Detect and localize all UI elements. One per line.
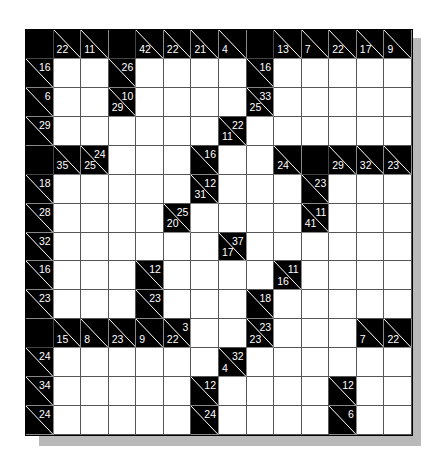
entry-cell[interactable]: [109, 261, 137, 290]
entry-cell[interactable]: [136, 348, 164, 377]
entry-cell[interactable]: [274, 88, 302, 117]
entry-cell[interactable]: [357, 377, 385, 406]
entry-cell[interactable]: [219, 204, 247, 233]
entry-cell[interactable]: [81, 59, 109, 88]
entry-cell[interactable]: [274, 377, 302, 406]
entry-cell[interactable]: [164, 146, 192, 175]
entry-cell[interactable]: [274, 233, 302, 262]
entry-cell[interactable]: [219, 88, 247, 117]
entry-cell[interactable]: [357, 175, 385, 204]
entry-cell[interactable]: [274, 59, 302, 88]
entry-cell[interactable]: [219, 261, 247, 290]
entry-cell[interactable]: [274, 204, 302, 233]
entry-cell[interactable]: [302, 261, 330, 290]
entry-cell[interactable]: [164, 88, 192, 117]
entry-cell[interactable]: [191, 348, 219, 377]
entry-cell[interactable]: [384, 348, 412, 377]
entry-cell[interactable]: [136, 204, 164, 233]
entry-cell[interactable]: [357, 59, 385, 88]
entry-cell[interactable]: [109, 233, 137, 262]
entry-cell[interactable]: [164, 290, 192, 319]
entry-cell[interactable]: [247, 204, 275, 233]
entry-cell[interactable]: [109, 406, 137, 435]
entry-cell[interactable]: [54, 261, 82, 290]
entry-cell[interactable]: [302, 88, 330, 117]
entry-cell[interactable]: [247, 377, 275, 406]
entry-cell[interactable]: [247, 117, 275, 146]
entry-cell[interactable]: [54, 348, 82, 377]
entry-cell[interactable]: [329, 204, 357, 233]
entry-cell[interactable]: [384, 261, 412, 290]
entry-cell[interactable]: [81, 261, 109, 290]
entry-cell[interactable]: [81, 290, 109, 319]
entry-cell[interactable]: [219, 377, 247, 406]
entry-cell[interactable]: [357, 290, 385, 319]
entry-cell[interactable]: [164, 406, 192, 435]
entry-cell[interactable]: [109, 377, 137, 406]
entry-cell[interactable]: [247, 406, 275, 435]
entry-cell[interactable]: [384, 233, 412, 262]
entry-cell[interactable]: [302, 348, 330, 377]
entry-cell[interactable]: [274, 319, 302, 348]
entry-cell[interactable]: [247, 261, 275, 290]
entry-cell[interactable]: [384, 117, 412, 146]
entry-cell[interactable]: [384, 88, 412, 117]
entry-cell[interactable]: [191, 261, 219, 290]
entry-cell[interactable]: [109, 348, 137, 377]
entry-cell[interactable]: [247, 233, 275, 262]
entry-cell[interactable]: [191, 319, 219, 348]
entry-cell[interactable]: [329, 261, 357, 290]
entry-cell[interactable]: [247, 348, 275, 377]
entry-cell[interactable]: [136, 88, 164, 117]
entry-cell[interactable]: [164, 117, 192, 146]
entry-cell[interactable]: [109, 290, 137, 319]
entry-cell[interactable]: [54, 204, 82, 233]
entry-cell[interactable]: [136, 59, 164, 88]
entry-cell[interactable]: [191, 204, 219, 233]
entry-cell[interactable]: [54, 117, 82, 146]
entry-cell[interactable]: [247, 175, 275, 204]
entry-cell[interactable]: [219, 175, 247, 204]
entry-cell[interactable]: [274, 175, 302, 204]
entry-cell[interactable]: [357, 261, 385, 290]
entry-cell[interactable]: [302, 319, 330, 348]
entry-cell[interactable]: [384, 204, 412, 233]
entry-cell[interactable]: [329, 175, 357, 204]
entry-cell[interactable]: [191, 290, 219, 319]
entry-cell[interactable]: [302, 377, 330, 406]
entry-cell[interactable]: [247, 146, 275, 175]
entry-cell[interactable]: [219, 290, 247, 319]
entry-cell[interactable]: [329, 117, 357, 146]
entry-cell[interactable]: [81, 204, 109, 233]
entry-cell[interactable]: [219, 406, 247, 435]
entry-cell[interactable]: [219, 59, 247, 88]
entry-cell[interactable]: [357, 348, 385, 377]
entry-cell[interactable]: [81, 175, 109, 204]
entry-cell[interactable]: [81, 233, 109, 262]
entry-cell[interactable]: [164, 348, 192, 377]
entry-cell[interactable]: [357, 117, 385, 146]
entry-cell[interactable]: [54, 88, 82, 117]
entry-cell[interactable]: [302, 117, 330, 146]
entry-cell[interactable]: [384, 377, 412, 406]
entry-cell[interactable]: [329, 348, 357, 377]
entry-cell[interactable]: [191, 117, 219, 146]
entry-cell[interactable]: [384, 290, 412, 319]
entry-cell[interactable]: [302, 59, 330, 88]
entry-cell[interactable]: [329, 233, 357, 262]
entry-cell[interactable]: [274, 406, 302, 435]
entry-cell[interactable]: [81, 377, 109, 406]
entry-cell[interactable]: [274, 290, 302, 319]
entry-cell[interactable]: [329, 290, 357, 319]
entry-cell[interactable]: [302, 233, 330, 262]
entry-cell[interactable]: [109, 175, 137, 204]
entry-cell[interactable]: [219, 319, 247, 348]
entry-cell[interactable]: [81, 348, 109, 377]
entry-cell[interactable]: [54, 175, 82, 204]
entry-cell[interactable]: [54, 377, 82, 406]
entry-cell[interactable]: [164, 175, 192, 204]
entry-cell[interactable]: [329, 319, 357, 348]
entry-cell[interactable]: [109, 204, 137, 233]
entry-cell[interactable]: [274, 117, 302, 146]
entry-cell[interactable]: [54, 59, 82, 88]
